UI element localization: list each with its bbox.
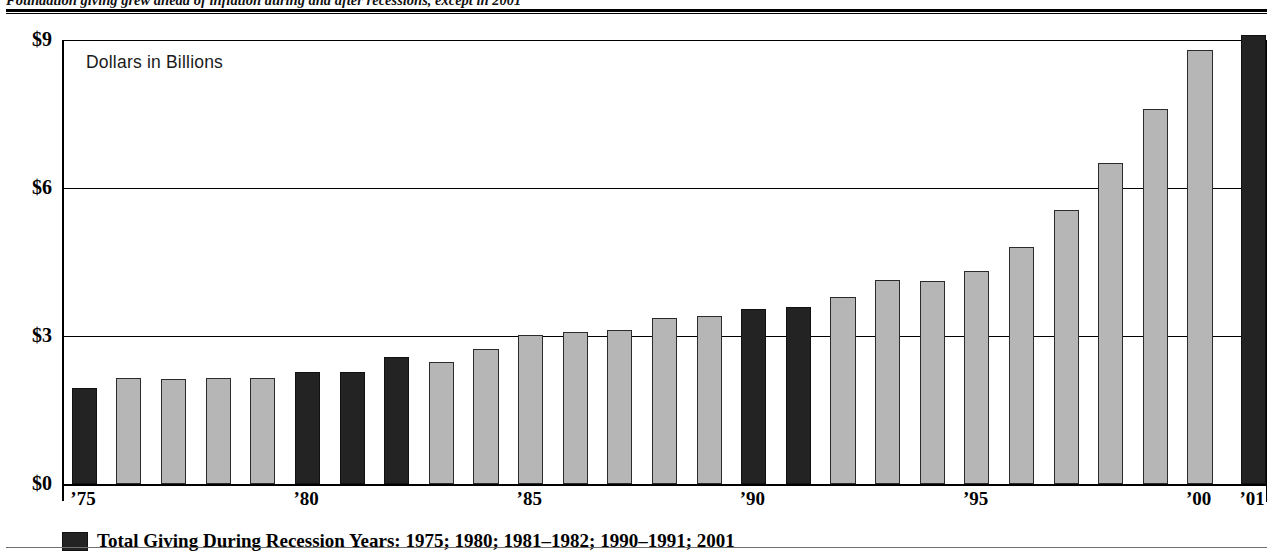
bar-1992 bbox=[830, 297, 855, 485]
y-tick-label: $9 bbox=[0, 29, 52, 49]
y-tick-label: $3 bbox=[0, 325, 52, 345]
bar-1984 bbox=[473, 349, 498, 484]
top-rule-secondary bbox=[6, 13, 1267, 14]
bar-1978 bbox=[206, 378, 231, 484]
bar-1983 bbox=[429, 362, 454, 484]
bar-1995 bbox=[964, 271, 989, 484]
legend-label-recession: Total Giving During Recession Years: 197… bbox=[97, 530, 735, 552]
bar-1981 bbox=[340, 372, 365, 485]
figure-caption-clip: Foundation giving grew ahead of inflatio… bbox=[6, 0, 1266, 9]
x-tick-label-1995: ’95 bbox=[963, 488, 988, 510]
bar-1996 bbox=[1009, 247, 1034, 484]
figure-caption: Foundation giving grew ahead of inflatio… bbox=[6, 0, 1266, 9]
bar-1991 bbox=[786, 307, 811, 484]
bar-2000 bbox=[1187, 50, 1212, 484]
bar-1998 bbox=[1098, 163, 1123, 484]
bar-1988 bbox=[652, 318, 677, 484]
x-tick-label-1985: ’85 bbox=[517, 488, 542, 510]
x-tick-label-1975: ’75 bbox=[70, 488, 95, 510]
bar-1987 bbox=[607, 330, 632, 484]
bar-1980 bbox=[295, 372, 320, 485]
bar-1977 bbox=[161, 379, 186, 484]
bar-2001 bbox=[1241, 35, 1266, 484]
figure: Foundation giving grew ahead of inflatio… bbox=[0, 0, 1273, 552]
x-tick-label-1980: ’80 bbox=[293, 488, 318, 510]
bar-1989 bbox=[697, 316, 722, 484]
bar-1986 bbox=[563, 332, 588, 484]
chart-plot-area: $0$3$6$9 Dollars in Billions ’75’80’85’9… bbox=[0, 16, 1273, 552]
chart-legend: Total Giving During Recession Years: 197… bbox=[62, 530, 735, 552]
bar-1999 bbox=[1143, 109, 1168, 484]
top-rule bbox=[6, 9, 1267, 12]
bar-1994 bbox=[920, 281, 945, 484]
x-tick-label-1990: ’90 bbox=[740, 488, 765, 510]
bar-1993 bbox=[875, 280, 900, 484]
y-tick-label: $6 bbox=[0, 177, 52, 197]
x-tick-label-2000: ’00 bbox=[1186, 488, 1211, 510]
y-tick-label: $0 bbox=[0, 473, 52, 493]
bar-1975 bbox=[72, 388, 97, 484]
bar-1997 bbox=[1054, 210, 1079, 484]
bottom-rule bbox=[6, 547, 1267, 548]
bar-series bbox=[62, 16, 1267, 486]
bar-1990 bbox=[741, 309, 766, 484]
x-tick-label-2001: ’01 bbox=[1239, 488, 1264, 510]
bar-1979 bbox=[250, 378, 275, 484]
bar-1976 bbox=[116, 378, 141, 484]
bar-1985 bbox=[518, 335, 543, 485]
bar-1982 bbox=[384, 357, 409, 484]
